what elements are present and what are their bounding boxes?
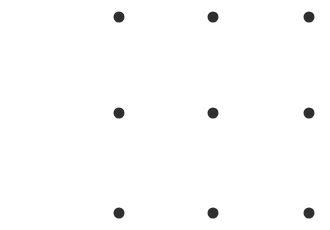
pattern-dot-3[interactable]	[304, 12, 315, 23]
pattern-dot-8[interactable]	[208, 208, 219, 219]
pattern-dot-7[interactable]	[114, 208, 125, 219]
pattern-dot-4[interactable]	[114, 108, 125, 119]
pattern-dot-6[interactable]	[304, 108, 315, 119]
pattern-dot-9[interactable]	[304, 208, 315, 219]
pattern-dot-1[interactable]	[114, 12, 125, 23]
pattern-dot-2[interactable]	[208, 12, 219, 23]
pattern-lock-grid	[0, 0, 330, 230]
pattern-dot-5[interactable]	[208, 108, 219, 119]
